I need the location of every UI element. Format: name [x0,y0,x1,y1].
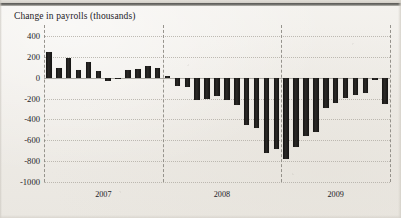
bar [155,68,161,77]
bar [145,66,151,77]
y-axis-tick-labels: 4002000-200-400-600-800-1000 [0,36,40,182]
bar [115,78,121,80]
y-tick-label--800: -800 [24,156,40,166]
bar [135,69,141,78]
y-tick-label--400: -400 [24,114,40,124]
bar [323,78,329,108]
bar [56,68,62,77]
bar [303,78,309,136]
bar [175,78,181,86]
bar [372,78,378,80]
bar [165,76,171,78]
bar [204,78,210,99]
bar [363,78,369,94]
y-tick-label--600: -600 [24,135,40,145]
x-tick-label-2008: 2008 [214,190,230,199]
plot-area [44,36,390,182]
year-separator-3 [390,25,391,182]
bar [333,78,339,103]
bar [46,52,52,78]
bar [125,70,131,78]
y-tick-label--1000: -1000 [20,177,40,187]
bar [293,78,299,147]
bar [224,78,230,100]
bar [105,78,111,81]
bar [194,78,200,100]
bar [264,78,270,153]
page-bottom-edge [0,215,401,218]
y-tick-label-400: 400 [27,31,40,41]
y-tick-label-0: 0 [36,73,40,83]
bar-series [44,36,390,182]
bar [283,78,289,159]
bar [96,71,102,77]
bar [185,78,191,87]
bar [66,58,72,78]
bar [86,62,92,78]
bar [76,70,82,78]
y-tick-label--200: -200 [24,94,40,104]
bar [313,78,319,132]
y-tick-label-200: 200 [27,52,40,62]
bar [382,78,388,104]
bar [254,78,260,128]
bar [353,78,359,96]
bar [214,78,220,97]
x-tick-label-2009: 2009 [327,190,343,199]
page-header-rule [0,3,401,6]
x-tick-label-2007: 2007 [95,190,111,199]
bar [274,78,280,149]
chart-title: Change in payrolls (thousands) [14,11,135,21]
gridline--1000 [44,182,390,183]
scanned-chart-page: Change in payrolls (thousands) 4002000-2… [0,0,401,218]
bar [244,78,250,125]
bar [234,78,240,105]
bar [343,78,349,98]
